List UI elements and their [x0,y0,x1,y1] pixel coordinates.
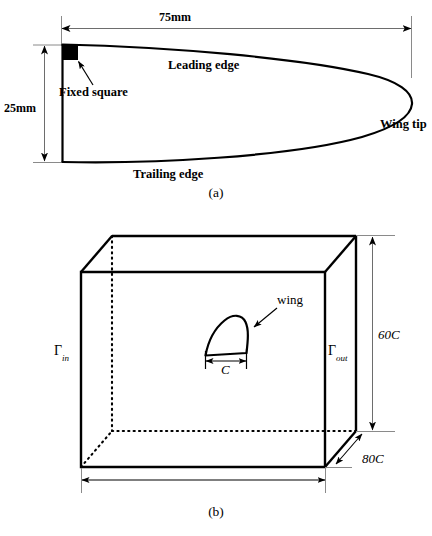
panel-b-caption: (b) [0,505,432,519]
trailing-edge-label: Trailing edge [133,168,203,181]
wing-leader-line [254,308,277,327]
domain-box-back-edges [81,236,356,467]
wing-shape [206,316,248,356]
chord-dimension-label: C [221,363,230,376]
panel-b-computational-domain: Γin Γout 60C 80C 60C C wing (b) [0,210,432,536]
outlet-subscript: out [336,353,348,363]
inlet-subscript: in [62,353,69,363]
chord-extension-lines [33,45,62,163]
fixed-square-marker [63,45,79,61]
wing-label: wing [277,293,303,306]
wing-tip-label: Wing tip [380,118,427,131]
fixed-square-leader [79,62,94,86]
figure-root: 75mm 25mm Leading edge Trailing edge Win… [0,0,432,536]
inlet-boundary-label: Γin [54,344,69,361]
depth-dimension-label: 80C [362,452,384,465]
chord-dimension-label: 25mm [0,102,36,114]
span-dimension-label: 75mm [159,11,191,23]
gamma-symbol-in: Γ [54,343,62,358]
gamma-symbol-out: Γ [328,343,336,358]
panel-a-drawing [0,0,432,210]
outlet-boundary-label: Γout [328,344,348,361]
fixed-square-label: Fixed square [59,86,128,99]
domain-box-hidden-edges [81,236,356,467]
height-dimension-label: 60C [378,328,400,341]
trailing-edge-curve [63,104,413,162]
width-dimension-label: 60C [0,482,203,495]
leading-edge-label: Leading edge [168,59,239,72]
panel-a-caption: (a) [0,186,432,200]
panel-a-wing-planform: 75mm 25mm Leading edge Trailing edge Win… [0,0,432,210]
